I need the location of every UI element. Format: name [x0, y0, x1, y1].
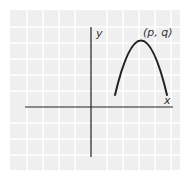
- vertex-label: (p, q): [143, 27, 173, 38]
- x-axis-label: x: [164, 95, 171, 106]
- y-axis-label: y: [96, 28, 103, 39]
